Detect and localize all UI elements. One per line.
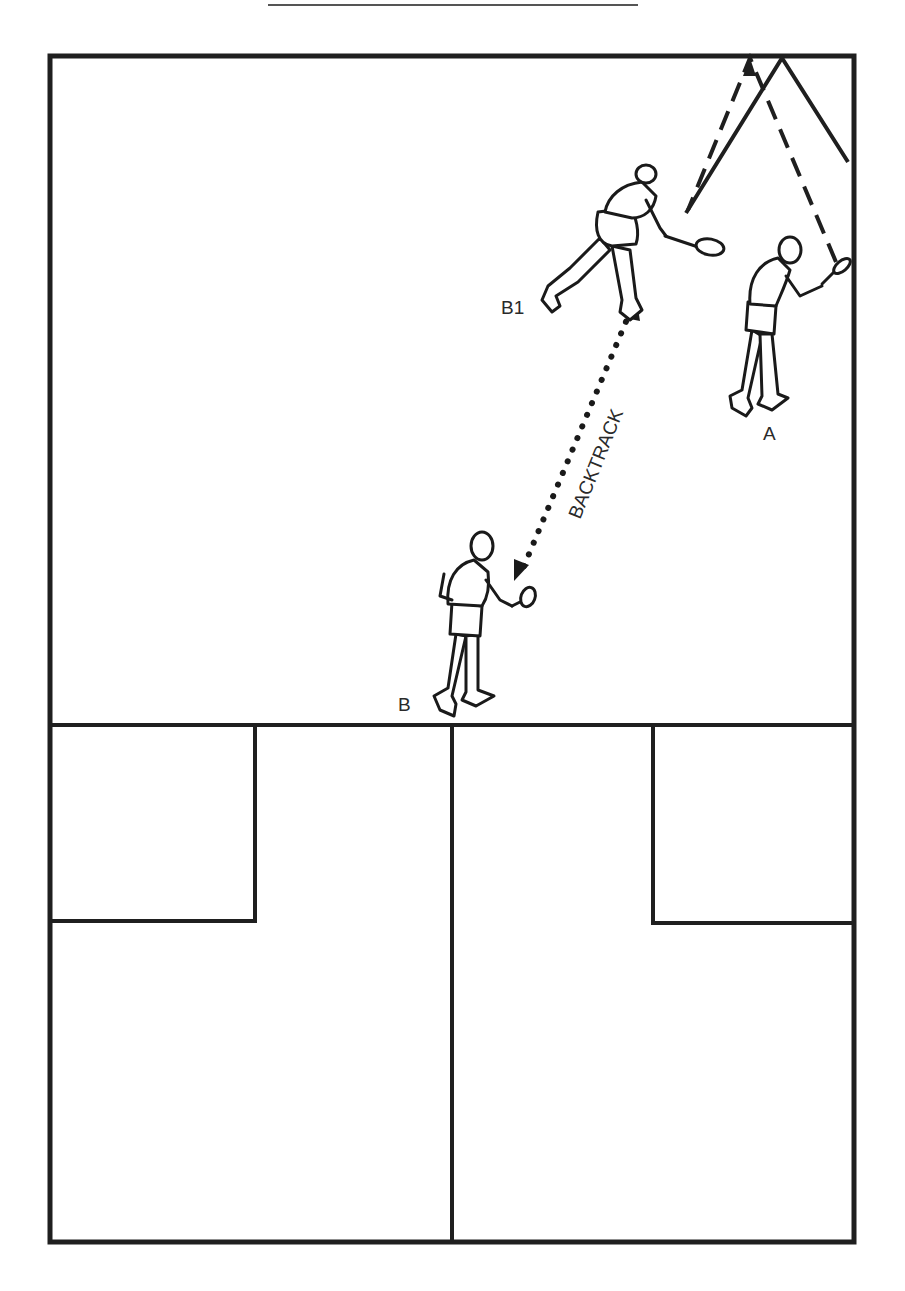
player-b1-label: B1 [501,297,524,318]
court-diagram: BACKTRACK B1 A [0,0,905,1291]
player-b1-figure [542,165,725,320]
player-b-label: B [398,694,411,715]
player-a-figure [730,237,853,416]
backtrack-arrow [514,296,640,581]
ball-path-solid [686,58,848,213]
court-lines [50,56,854,1242]
player-a-label: A [763,423,776,444]
right-service-box [653,725,854,923]
left-service-box [50,725,255,921]
backtrack-label: BACKTRACK [564,406,627,522]
player-b-figure [434,532,538,716]
arrowhead-down-icon [514,559,529,581]
